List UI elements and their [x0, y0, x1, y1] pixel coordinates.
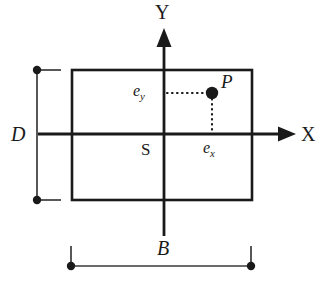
y-axis-label: Y — [155, 2, 169, 22]
eccentricity-y-label: ey — [133, 83, 145, 102]
depth-dimension-endpoint-bottom — [33, 196, 41, 204]
load-point-marker — [206, 87, 218, 99]
depth-dimension-label: D — [11, 124, 25, 144]
diagram-canvas: Y X S P ey ex D B — [0, 0, 326, 286]
breadth-dimension-endpoint-right — [247, 262, 255, 270]
x-axis-label: X — [301, 124, 315, 144]
depth-dimension-endpoint-top — [33, 66, 41, 74]
load-point-label: P — [221, 72, 233, 91]
breadth-dimension-label: B — [157, 238, 169, 258]
origin-label: S — [141, 141, 150, 158]
eccentricity-y-label-subscript: y — [140, 90, 145, 102]
eccentricity-x-label-subscript: x — [210, 147, 215, 159]
eccentricity-x-label: ex — [203, 140, 215, 159]
breadth-dimension-endpoint-left — [67, 262, 75, 270]
y-axis-arrowhead-icon — [157, 28, 172, 47]
x-axis-arrowhead-icon — [278, 127, 296, 142]
